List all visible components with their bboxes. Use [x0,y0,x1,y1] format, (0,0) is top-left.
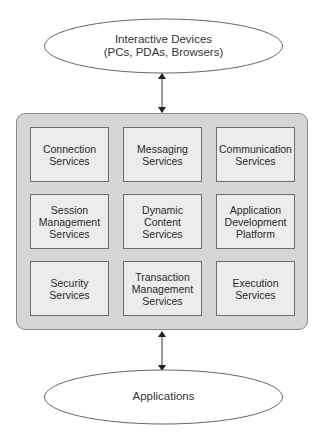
service-label: Security Services [49,277,89,301]
messaging-services-box: Messaging Services [123,127,202,182]
security-services-box: Security Services [30,261,109,316]
interactive-devices-label: Interactive Devices (PCs, PDAs, Browsers… [44,33,283,59]
service-label: Connection Services [43,143,96,167]
communication-services-box: Communication Services [216,127,295,182]
execution-services-box: Execution Services [216,261,295,316]
service-label: Execution Services [232,277,278,301]
dynamic-content-services-box: Dynamic Content Services [123,194,202,249]
connection-services-box: Connection Services [30,127,109,182]
interactive-devices-subtitle: (PCs, PDAs, Browsers) [44,46,283,59]
service-label: Session Management Services [39,204,100,240]
service-label: Application Development Platform [225,204,287,240]
applications-label: Applications [44,390,283,403]
services-framework-container: Connection Services Messaging Services C… [16,113,308,330]
framework-diagram: Interactive Devices (PCs, PDAs, Browsers… [0,0,326,442]
service-label: Dynamic Content Services [142,204,183,240]
service-label: Transaction Management Services [132,271,193,307]
interactive-devices-title: Interactive Devices [44,33,283,46]
transaction-management-services-box: Transaction Management Services [123,261,202,316]
service-label: Messaging Services [137,143,188,167]
service-label: Communication Services [219,143,292,167]
session-management-services-box: Session Management Services [30,194,109,249]
application-development-platform-box: Application Development Platform [216,194,295,249]
